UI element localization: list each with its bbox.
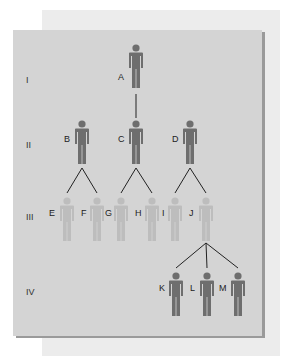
connector-line xyxy=(206,243,207,268)
connector-line xyxy=(121,168,136,193)
person-label-h: H xyxy=(135,208,142,218)
person-icon-i xyxy=(168,197,182,241)
person-icon-a xyxy=(129,44,143,88)
connector-line xyxy=(67,168,82,193)
generation-label-iii: III xyxy=(26,212,34,222)
person-label-b: B xyxy=(64,134,70,144)
person-icon-g xyxy=(114,197,128,241)
person-icon-d xyxy=(183,120,197,164)
person-label-m: M xyxy=(219,283,227,293)
connector-line xyxy=(176,243,206,268)
generation-label-i: I xyxy=(26,75,29,85)
person-icon-l xyxy=(200,272,214,316)
generation-label-ii: II xyxy=(26,140,31,150)
connector-line xyxy=(82,168,97,193)
person-label-k: K xyxy=(159,283,165,293)
pedigree-diagram xyxy=(0,0,292,362)
person-label-i: I xyxy=(162,208,165,218)
person-label-j: J xyxy=(189,208,194,218)
person-icon-j xyxy=(199,197,213,241)
generation-label-iv: IV xyxy=(26,287,35,297)
person-label-f: F xyxy=(81,208,87,218)
person-label-c: C xyxy=(118,134,125,144)
person-icon-b xyxy=(75,120,89,164)
person-icon-h xyxy=(145,197,159,241)
person-icon-e xyxy=(60,197,74,241)
person-label-l: L xyxy=(190,283,195,293)
connector-line xyxy=(206,243,238,268)
connector-line xyxy=(136,168,152,193)
person-label-a: A xyxy=(118,72,124,82)
person-icon-c xyxy=(129,120,143,164)
person-label-e: E xyxy=(49,208,55,218)
person-label-g: G xyxy=(105,208,112,218)
connector-line xyxy=(190,168,206,193)
person-icon-m xyxy=(231,272,245,316)
connector-line xyxy=(175,168,190,193)
person-icon-k xyxy=(169,272,183,316)
person-icon-f xyxy=(90,197,104,241)
person-label-d: D xyxy=(172,134,179,144)
